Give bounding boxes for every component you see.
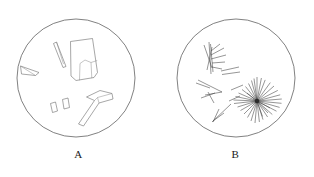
sliver-crystal-left-edge bbox=[21, 66, 40, 76]
panel-a: A bbox=[0, 0, 157, 177]
small-parallelogram-left bbox=[51, 102, 58, 113]
hammer-shaped-crystal bbox=[79, 91, 114, 127]
starburst-core-icon bbox=[255, 99, 259, 103]
feather-sheaf-needle-cluster bbox=[204, 42, 226, 74]
panel-a-circle-outline bbox=[17, 19, 135, 137]
panel-b-label: B bbox=[157, 148, 314, 160]
large-tabular-crystal bbox=[71, 39, 98, 81]
small-parallelogram-right bbox=[63, 98, 70, 109]
panel-b-drawing bbox=[157, 0, 314, 147]
panel-a-drawing bbox=[0, 0, 157, 147]
panel-b: B bbox=[157, 0, 314, 177]
panel-a-label: A bbox=[0, 148, 157, 160]
panel-b-circle-outline bbox=[177, 19, 295, 137]
two-panel-crystal-figure: A bbox=[0, 0, 314, 177]
loose-needles-group bbox=[196, 67, 243, 122]
thin-lath-crystal-upper-left bbox=[54, 42, 67, 68]
